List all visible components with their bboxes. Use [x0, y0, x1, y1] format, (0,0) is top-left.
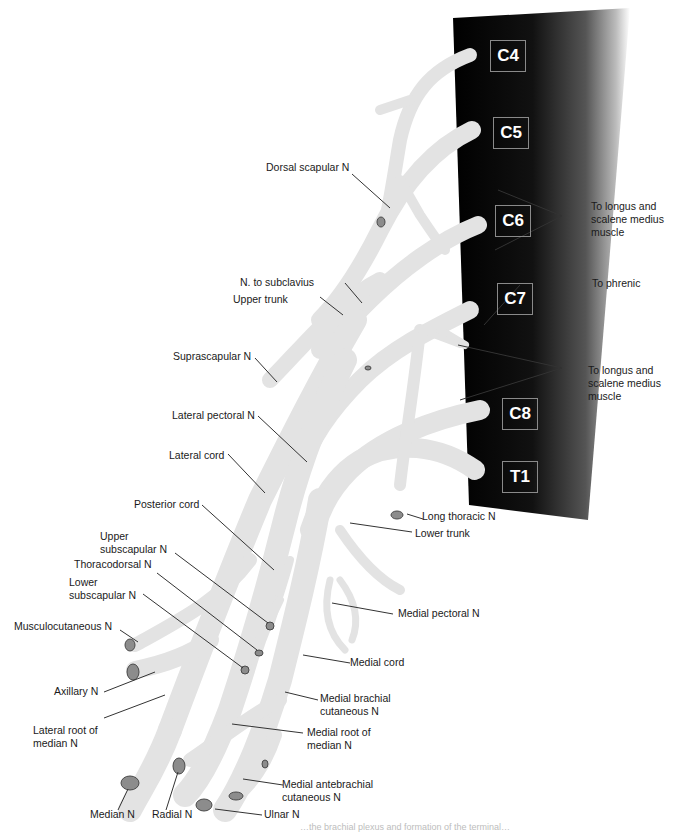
label-upper-subscapular: Upper subscapular N — [100, 530, 180, 556]
label-long-thoracic: Long thoracic N — [422, 510, 496, 523]
vertebral-column — [453, 8, 630, 520]
label-lateral-root-median: Lateral root of median N — [33, 724, 103, 750]
label-posterior-cord: Posterior cord — [134, 498, 199, 511]
label-medial-brachial-cutaneous: Medial brachial cutaneous N — [320, 692, 400, 718]
label-lower-trunk: Lower trunk — [415, 527, 470, 540]
label-lateral-pectoral: Lateral pectoral N — [172, 409, 255, 422]
label-medial-antebrachial-cutaneous: Medial antebrachial cutaneous N — [282, 778, 397, 804]
label-lateral-cord: Lateral cord — [169, 449, 224, 462]
label-medial-cord: Medial cord — [350, 656, 404, 669]
label-thoracodorsal: Thoracodorsal N — [74, 558, 152, 571]
label-to-longus-lower: To longus and scalene medius muscle — [588, 364, 678, 403]
vertebra-c4-label: C4 — [490, 40, 526, 72]
brachial-plexus-diagram: C4 C5 C6 C7 C8 T1 Dorsal scapular N To l… — [0, 0, 681, 833]
vertebra-c5-label: C5 — [493, 117, 529, 149]
label-to-phrenic: To phrenic — [592, 277, 640, 290]
label-lower-subscapular: Lower subscapular N — [69, 576, 149, 602]
figure-caption-fragment: …the brachial plexus and formation of th… — [300, 822, 510, 833]
label-ulnar: Ulnar N — [264, 808, 300, 821]
vertebra-t1-label: T1 — [502, 461, 538, 493]
vertebra-c7-label: C7 — [497, 283, 533, 315]
label-musculocutaneous: Musculocutaneous N — [14, 620, 112, 633]
label-axillary: Axillary N — [54, 685, 98, 698]
label-medial-root-median: Medial root of median N — [307, 726, 387, 752]
label-dorsal-scapular: Dorsal scapular N — [266, 161, 349, 174]
vertebra-c6-label: C6 — [495, 205, 531, 237]
vertebra-c8-label: C8 — [502, 398, 538, 430]
label-radial: Radial N — [152, 808, 192, 821]
label-upper-trunk: Upper trunk — [233, 293, 288, 306]
label-suprascapular: Suprascapular N — [173, 350, 251, 363]
label-to-longus-upper: To longus and scalene medius muscle — [591, 200, 681, 239]
label-median: Median N — [90, 808, 135, 821]
label-n-to-subclavius: N. to subclavius — [240, 276, 314, 289]
label-medial-pectoral: Medial pectoral N — [398, 607, 480, 620]
